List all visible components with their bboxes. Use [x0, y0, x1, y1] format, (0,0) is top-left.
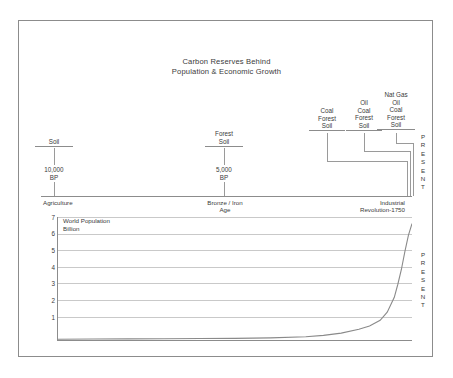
y-tick-7: 7 — [41, 214, 55, 221]
present-chart-c1: P — [419, 251, 427, 259]
y-tick-6: 6 — [41, 230, 55, 237]
era-bronze-iron-line1: Bronze / Iron — [179, 199, 271, 206]
present-upper-c6: N — [419, 175, 427, 183]
marker-10000bp-line1: 10,000 — [31, 166, 77, 174]
present-chart-c2: R — [419, 259, 427, 267]
present-chart-c7: T — [419, 301, 427, 309]
leader-line-soil — [54, 148, 55, 165]
reserve-label-forest-3: Forest — [309, 115, 345, 123]
title-line-2: Population & Economic Growth — [19, 67, 434, 77]
reserve-label-coal-5: Coal — [377, 106, 415, 114]
reserve-label-natgas: Nat Gas — [377, 91, 415, 99]
reserve-group-forest-soil: Forest Soil — [205, 130, 243, 147]
leader-line-10000bp — [54, 182, 55, 196]
present-chart-c6: N — [419, 293, 427, 301]
present-upper-c7: T — [419, 183, 427, 191]
leader-line-forest-soil — [224, 148, 225, 165]
leader-line-oil-h — [364, 151, 410, 152]
era-industrial-line1: Industrial — [307, 199, 405, 206]
era-industrial-line2: Revolution-1750 — [307, 206, 405, 213]
leader-line-coal-h — [327, 161, 407, 162]
chart-plot-area — [57, 217, 412, 341]
present-chart-c5: E — [419, 285, 427, 293]
era-bronze-iron-line2: Age — [179, 206, 271, 213]
reserve-label-coal: Coal — [309, 107, 345, 115]
present-label-upper: P R E S E N T — [419, 133, 427, 192]
marker-5000bp-line1: 5,000 — [201, 166, 247, 174]
present-label-chart: P R E S E N T — [419, 251, 427, 310]
leader-line-natgas-v1 — [396, 133, 397, 143]
title-line-1: Carbon Reserves Behind — [19, 57, 434, 67]
leader-line-coal-v1 — [327, 133, 328, 161]
reserve-label-forest: Forest — [205, 130, 243, 138]
marker-10000bp: 10,000 BP — [31, 166, 77, 181]
y-tick-4: 4 — [41, 264, 55, 271]
present-upper-c5: E — [419, 167, 427, 175]
present-upper-c3: E — [419, 150, 427, 158]
y-tick-1: 1 — [41, 314, 55, 321]
era-agriculture: Agriculture — [43, 199, 153, 206]
reserve-label-soil-3: Soil — [309, 122, 345, 131]
page-title: Carbon Reserves Behind Population & Econ… — [19, 57, 434, 77]
era-bronze-iron: Bronze / Iron Age — [179, 199, 271, 214]
reserve-group-soil: Soil — [35, 138, 73, 147]
marker-5000bp-line2: BP — [201, 174, 247, 182]
present-chart-c4: S — [419, 276, 427, 284]
marker-5000bp: 5,000 BP — [201, 166, 247, 181]
population-curve — [58, 217, 412, 340]
leader-line-oil-v1 — [364, 133, 365, 151]
leader-line-5000bp — [224, 182, 225, 196]
diagram-frame: Carbon Reserves Behind Population & Econ… — [18, 20, 433, 357]
reserve-label-soil-2: Soil — [205, 138, 243, 147]
reserve-group-natgas: Nat Gas Oil Coal Forest Soil — [377, 91, 415, 130]
era-industrial-revolution: Industrial Revolution-1750 — [307, 199, 405, 214]
leader-line-coal-v2 — [407, 161, 408, 196]
y-tick-2: 2 — [41, 297, 55, 304]
present-upper-c4: S — [419, 158, 427, 166]
present-chart-c3: E — [419, 268, 427, 276]
reserve-group-coal: Coal Forest Soil — [309, 107, 345, 131]
leader-line-natgas-h — [396, 143, 413, 144]
present-upper-c2: R — [419, 141, 427, 149]
leader-line-natgas-v2 — [413, 143, 414, 196]
leader-line-oil-v2 — [410, 151, 411, 196]
reserve-label-oil-5: Oil — [377, 99, 415, 107]
era-agriculture-label: Agriculture — [43, 199, 153, 206]
reserve-label-soil-5: Soil — [377, 121, 415, 130]
y-tick-5: 5 — [41, 247, 55, 254]
marker-10000bp-line2: BP — [31, 174, 77, 182]
present-upper-c1: P — [419, 133, 427, 141]
reserve-label-forest-5: Forest — [377, 114, 415, 122]
reserve-label-soil: Soil — [35, 138, 73, 147]
world-population-chart: 7 6 5 4 3 2 1 World Population Billion P… — [41, 217, 412, 341]
timeline-axis — [41, 196, 412, 197]
y-tick-3: 3 — [41, 280, 55, 287]
